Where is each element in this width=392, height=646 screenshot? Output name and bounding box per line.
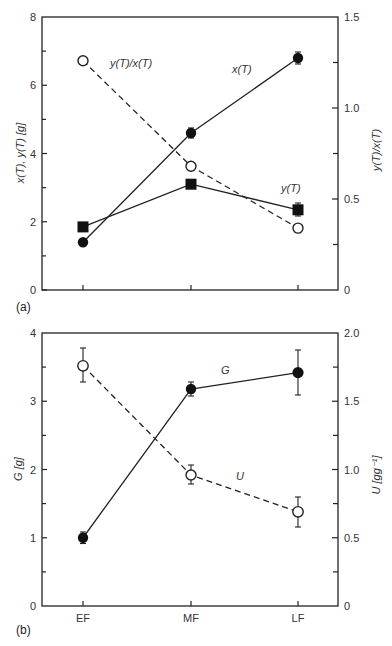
series-ratio-marker-LF bbox=[293, 223, 303, 233]
series-x-label: x(T) bbox=[231, 63, 252, 75]
series-G-line bbox=[83, 373, 298, 538]
series-U-marker-LF bbox=[293, 507, 303, 517]
panel-b-right-tick-0: 0 bbox=[344, 600, 350, 612]
panel-a-x-ticks bbox=[83, 285, 298, 290]
x-tick-LF: LF bbox=[292, 612, 305, 624]
panel-a-right-tick-0: 0 bbox=[344, 284, 350, 296]
panel-b-left-tick-4: 4 bbox=[30, 327, 36, 339]
series-ratio-marker-MF bbox=[186, 161, 196, 171]
series-x-marker-MF bbox=[186, 128, 196, 138]
panel-a-left-tick-8: 8 bbox=[30, 11, 36, 23]
panel-a: 0 2 4 6 8 0 0.5 1.0 1.5 x(T), y(T) [g] y… bbox=[14, 11, 382, 314]
series-y-marker-MF bbox=[186, 179, 197, 190]
panel-b-right-axis-title: U [gg⁻¹] bbox=[370, 455, 382, 495]
series-U-error-bars bbox=[80, 348, 301, 527]
panel-b-right-tick-1.5: 1.5 bbox=[344, 395, 359, 407]
panel-a-right-tick-1.5: 1.5 bbox=[344, 11, 359, 23]
panel-a-left-tick-4: 4 bbox=[30, 148, 36, 160]
series-y-marker-EF bbox=[78, 221, 89, 232]
series-G-marker-LF bbox=[292, 367, 303, 378]
figure: 0 2 4 6 8 0 0.5 1.0 1.5 x(T), y(T) [g] y… bbox=[0, 0, 392, 646]
panel-a-left-tick-6: 6 bbox=[30, 79, 36, 91]
panel-b-left-tick-0: 0 bbox=[30, 600, 36, 612]
series-G-error-bars bbox=[80, 350, 301, 544]
series-G-label: G bbox=[221, 364, 230, 376]
panel-a-left-tick-0: 0 bbox=[30, 284, 36, 296]
series-ratio-marker-EF bbox=[78, 56, 88, 66]
panel-b: 0 1 2 3 4 0 0.5 1.0 1.5 2.0 EF MF LF G [… bbox=[12, 327, 382, 637]
x-tick-MF: MF bbox=[183, 612, 199, 624]
series-y-marker-LF bbox=[293, 204, 304, 215]
panel-a-left-axis-title: x(T), y(T) [g] bbox=[14, 122, 26, 184]
panel-a-right-axis-title: y(T)/x(T) bbox=[370, 129, 382, 172]
series-ratio-line bbox=[83, 61, 298, 228]
panel-b-x-ticks bbox=[83, 601, 298, 606]
panel-b-left-axis-title: G [g] bbox=[12, 456, 24, 481]
panel-b-right-tick-2.0: 2.0 bbox=[344, 327, 359, 339]
panel-b-left-tick-3: 3 bbox=[30, 395, 36, 407]
series-G-marker-EF bbox=[78, 533, 88, 543]
panel-b-right-tick-0.5: 0.5 bbox=[344, 532, 359, 544]
x-tick-EF: EF bbox=[76, 612, 90, 624]
panel-b-label: (b) bbox=[16, 623, 31, 637]
panel-b-left-tick-1: 1 bbox=[30, 532, 36, 544]
panel-a-right-tick-0.5: 0.5 bbox=[344, 193, 359, 205]
series-x-marker-EF bbox=[78, 237, 88, 247]
series-y-line bbox=[83, 184, 298, 227]
panel-b-left-ticks bbox=[42, 367, 47, 572]
panel-a-right-tick-1.0: 1.0 bbox=[344, 102, 359, 114]
series-y-label: y(T) bbox=[280, 182, 301, 194]
panel-a-right-ticks bbox=[332, 63, 338, 245]
panel-b-right-tick-1.0: 1.0 bbox=[344, 464, 359, 476]
panel-a-left-tick-2: 2 bbox=[30, 216, 36, 228]
series-ratio-label: y(T)/x(T) bbox=[109, 57, 152, 69]
series-U-marker-EF bbox=[78, 361, 88, 371]
panel-b-left-tick-2: 2 bbox=[30, 464, 36, 476]
series-U-marker-MF bbox=[186, 470, 196, 480]
panel-a-left-ticks bbox=[42, 51, 47, 290]
series-G-marker-MF bbox=[186, 384, 196, 394]
series-x-marker-LF bbox=[293, 53, 303, 63]
panel-a-label: (a) bbox=[16, 300, 31, 314]
panel-b-right-ticks bbox=[332, 367, 338, 572]
series-U-label: U bbox=[236, 470, 244, 482]
